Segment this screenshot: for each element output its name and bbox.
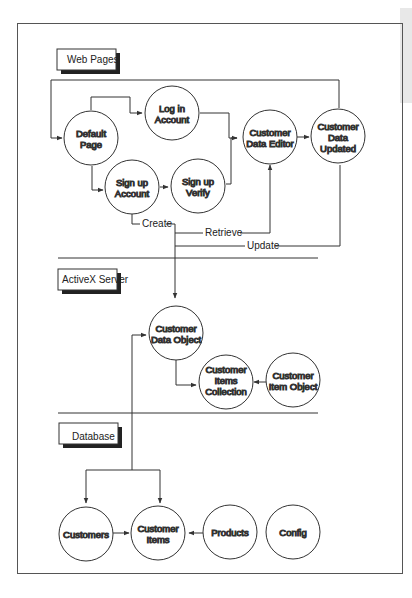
node-products[interactable]: Products <box>203 505 257 559</box>
edge-label-create: Create <box>142 218 172 229</box>
node-config[interactable]: Config <box>266 505 320 559</box>
edge-label-retrieve: Retrieve <box>205 227 243 238</box>
section-database: Database <box>59 423 122 448</box>
svg-text:Data Object: Data Object <box>151 334 202 345</box>
svg-text:Config: Config <box>279 527 306 538</box>
svg-text:Data Editor: Data Editor <box>246 138 294 149</box>
svg-text:Sign up: Sign up <box>116 177 148 188</box>
svg-text:Items: Items <box>146 534 169 545</box>
node-customer-item-object[interactable]: Customer Item Object <box>266 353 320 407</box>
svg-text:Customer: Customer <box>155 323 196 334</box>
svg-text:Sign up: Sign up <box>182 176 214 187</box>
svg-text:Customer: Customer <box>317 121 358 132</box>
svg-text:Updated: Updated <box>320 143 356 154</box>
svg-text:Account: Account <box>115 188 150 199</box>
node-customer-data-editor[interactable]: Customer Data Editor <box>243 110 297 164</box>
section-activex-server: ActiveX Server <box>58 269 129 294</box>
node-customer-items[interactable]: Customer Items <box>131 506 185 560</box>
svg-text:Customer: Customer <box>272 370 313 381</box>
activex-connectors <box>132 335 266 470</box>
svg-text:Collection: Collection <box>205 386 247 397</box>
architecture-diagram: Web Pages ActiveX Server Database <box>0 0 412 598</box>
svg-text:Customer: Customer <box>137 523 178 534</box>
node-customers[interactable]: Customers <box>59 507 113 561</box>
node-log-in-account[interactable]: Log in Account <box>145 86 199 140</box>
svg-text:Customer: Customer <box>205 364 246 375</box>
section-label-database: Database <box>72 431 115 442</box>
diagram-frame <box>18 24 403 574</box>
edge-label-update: Update <box>247 240 280 251</box>
svg-text:Customer: Customer <box>249 127 290 138</box>
node-customer-data-updated[interactable]: Customer Data Updated <box>311 109 365 163</box>
svg-text:Account: Account <box>155 114 190 125</box>
svg-text:Default: Default <box>76 128 106 139</box>
svg-text:Log in: Log in <box>159 103 185 114</box>
node-customer-items-collection[interactable]: Customer Items Collection <box>199 355 253 409</box>
node-customer-data-object[interactable]: Customer Data Object <box>149 306 203 360</box>
node-sign-up-account[interactable]: Sign up Account <box>105 160 159 214</box>
svg-text:Item Object: Item Object <box>269 381 318 392</box>
node-default-page[interactable]: Default Page <box>64 111 118 165</box>
svg-text:Products: Products <box>211 527 249 538</box>
section-label-activex-server: ActiveX Server <box>62 274 129 285</box>
svg-text:Verify: Verify <box>186 187 210 198</box>
svg-text:Items: Items <box>214 375 237 386</box>
svg-text:Page: Page <box>80 139 102 150</box>
section-label-web-pages: Web Pages <box>67 54 119 65</box>
section-web-pages: Web Pages <box>57 49 120 74</box>
node-sign-up-verify[interactable]: Sign up Verify <box>171 159 225 213</box>
svg-text:Data: Data <box>328 132 349 143</box>
svg-text:Customers: Customers <box>63 529 109 540</box>
